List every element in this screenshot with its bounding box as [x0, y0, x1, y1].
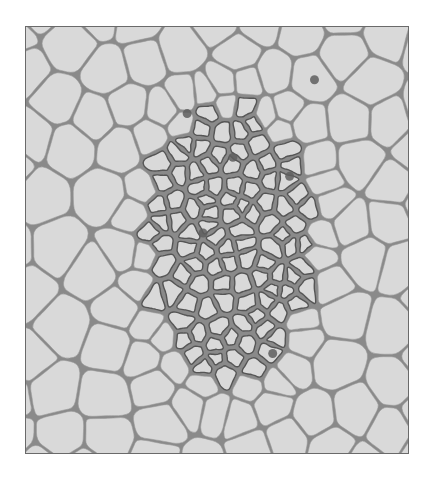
nucleus	[268, 349, 277, 358]
nucleus	[310, 75, 319, 84]
nucleus	[183, 109, 192, 118]
nucleus	[228, 153, 237, 162]
tissue-cross-section-image	[26, 27, 408, 453]
nucleus	[199, 229, 208, 238]
cell	[86, 418, 134, 453]
nucleus	[285, 172, 294, 181]
micrograph-frame	[25, 26, 409, 454]
